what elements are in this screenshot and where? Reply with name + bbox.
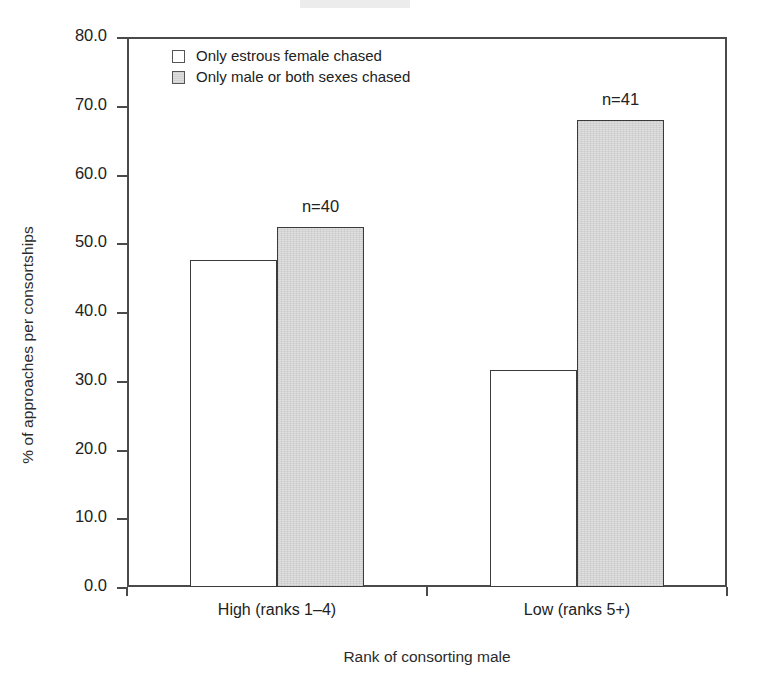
y-tick-label-30: 30.0 xyxy=(41,370,107,389)
legend-item-open[interactable]: Only estrous female chased xyxy=(172,46,410,66)
bar-high-only-estrous-female-chased[interactable] xyxy=(190,260,277,587)
legend-swatch-open-icon xyxy=(172,50,185,63)
legend: Only estrous female chased Only male or … xyxy=(172,46,410,88)
y-tick-label-80: 80.0 xyxy=(41,26,107,45)
y-tick-30 xyxy=(117,381,127,383)
annotation-n-low: n=41 xyxy=(602,90,639,109)
x-axis-title: Rank of consorting male xyxy=(127,648,727,666)
x-tick-label-low: Low (ranks 5+) xyxy=(524,601,630,619)
legend-label-open: Only estrous female chased xyxy=(196,47,382,65)
y-axis-title: % of approaches per consortships xyxy=(19,65,45,625)
y-tick-80 xyxy=(117,37,127,39)
y-tick-40 xyxy=(117,312,127,314)
x-tick-high xyxy=(126,587,128,596)
y-tick-50 xyxy=(117,243,127,245)
y-tick-label-10: 10.0 xyxy=(41,507,107,526)
y-tick-20 xyxy=(117,450,127,452)
scan-artifact xyxy=(300,0,410,8)
y-tick-label-60: 60.0 xyxy=(41,164,107,183)
y-tick-label-50: 50.0 xyxy=(41,232,107,251)
y-tick-label-70: 70.0 xyxy=(41,95,107,114)
x-tick-low xyxy=(726,587,728,596)
x-tick-mid xyxy=(426,587,428,596)
bar-high-only-male-or-both-sexes-chased[interactable] xyxy=(277,227,364,587)
bar-chart-figure: % of approaches per consortships 80.0 70… xyxy=(0,0,768,687)
legend-label-filled: Only male or both sexes chased xyxy=(196,68,410,86)
y-tick-60 xyxy=(117,175,127,177)
x-tick-label-high: High (ranks 1–4) xyxy=(218,601,336,619)
bar-low-only-male-or-both-sexes-chased[interactable] xyxy=(577,120,664,588)
y-tick-label-20: 20.0 xyxy=(41,439,107,458)
y-tick-70 xyxy=(117,106,127,108)
y-tick-label-40: 40.0 xyxy=(41,301,107,320)
annotation-n-high: n=40 xyxy=(302,197,339,216)
bar-low-only-estrous-female-chased[interactable] xyxy=(490,370,577,587)
legend-item-filled[interactable]: Only male or both sexes chased xyxy=(172,67,410,87)
y-tick-label-0: 0.0 xyxy=(41,576,107,595)
y-tick-10 xyxy=(117,518,127,520)
legend-swatch-filled-icon xyxy=(172,71,185,84)
